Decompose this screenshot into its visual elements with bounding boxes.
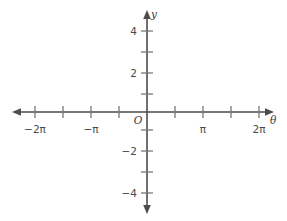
y-axis-down-arrow-icon [143,205,151,214]
coordinate-plane-figure: −2π −π π 2π 4 2 −2 −4 O y θ [0,0,287,221]
x-tick-label-pi: π [200,123,207,135]
origin-label: O [134,114,143,126]
x-tick-label-neg-pi: −π [83,123,99,135]
y-axis-up-arrow-icon [143,10,151,19]
y-tick-label-neg-2: −2 [122,145,137,157]
y-tick-label-neg-4: −4 [122,187,138,199]
x-tick-label-neg-2pi: −2π [24,123,46,135]
x-tick-label-2pi: 2π [252,123,266,135]
y-tick-label-4: 4 [130,25,137,37]
x-axis-label: θ [270,114,277,126]
coordinate-plane-svg: −2π −π π 2π 4 2 −2 −4 O y θ [0,0,287,221]
y-axis-label: y [150,8,158,20]
y-tick-label-2: 2 [130,67,137,79]
x-axis-left-arrow-icon [12,108,21,116]
